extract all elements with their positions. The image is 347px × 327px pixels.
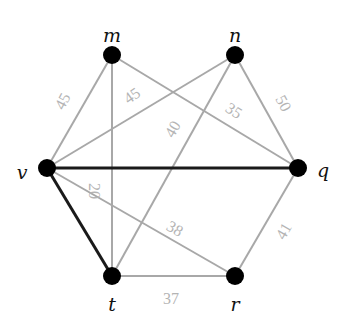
weighted-graph: 454535502040383741 mnvqtr xyxy=(0,0,347,327)
edge-weight-m-q: 35 xyxy=(223,99,246,122)
edge-weight-q-r: 41 xyxy=(272,220,295,242)
node-v xyxy=(38,159,56,177)
edge-weight-m-t: 20 xyxy=(86,183,103,199)
node-label-m: m xyxy=(103,24,121,46)
node-n xyxy=(226,46,244,64)
edges-layer xyxy=(47,55,298,276)
node-label-r: r xyxy=(230,293,241,315)
edge-q-r xyxy=(235,168,298,276)
node-label-t: t xyxy=(108,293,116,315)
node-label-v: v xyxy=(17,161,28,183)
weights-layer: 454535502040383741 xyxy=(51,84,295,307)
edge-weight-n-t: 40 xyxy=(161,118,184,140)
node-label-n: n xyxy=(229,24,241,46)
edge-n-q xyxy=(235,55,298,168)
node-r xyxy=(226,267,244,285)
node-m xyxy=(103,46,121,64)
node-label-q: q xyxy=(317,159,329,181)
edge-weight-t-r: 37 xyxy=(163,290,179,307)
edge-weight-n-q: 50 xyxy=(272,92,295,114)
edge-weight-v-m: 45 xyxy=(51,90,74,112)
node-t xyxy=(103,267,121,285)
edge-weight-v-n: 45 xyxy=(121,84,144,107)
node-q xyxy=(289,159,307,177)
edge-v-r xyxy=(47,168,235,276)
edge-v-m xyxy=(47,55,112,168)
